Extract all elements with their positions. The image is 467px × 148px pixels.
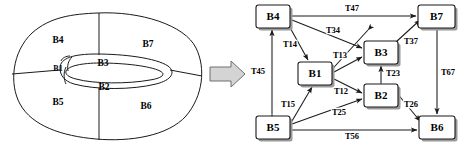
- b1-wedge-arc-lower: [64, 67, 66, 84]
- right-diagram-group: B4 B7 B3 B1 B2 B5: [251, 3, 458, 142]
- node-B2-label: B2: [375, 89, 388, 101]
- left-region-label-b7: B7: [142, 39, 153, 49]
- left-diagram-group: B4 B7 B1 B3 B2 B5 B6: [12, 13, 202, 140]
- cut-right-b7-b6: [170, 70, 202, 76]
- transform-arrow: [210, 61, 245, 87]
- left-region-label-b5: B5: [52, 97, 63, 107]
- edge-label-T13: T13: [333, 50, 347, 60]
- edge-label-T26: T26: [404, 99, 418, 109]
- b1-wedge-arc-upper: [61, 56, 70, 61]
- node-B7-label: B7: [430, 10, 443, 22]
- node-B3[interactable]: B3: [364, 41, 401, 67]
- left-region-label-b4: B4: [52, 35, 63, 45]
- node-B5-label: B5: [267, 121, 280, 133]
- edge-label-T15: T15: [281, 99, 295, 109]
- outer-boundary: [14, 13, 202, 140]
- left-region-label-b2: B2: [98, 82, 109, 92]
- edge-label-T45: T45: [251, 66, 265, 76]
- edge-label-T14: T14: [283, 39, 298, 49]
- node-B6-label: B6: [431, 121, 444, 133]
- inner-hole-inner: [66, 63, 163, 83]
- edge-label-T37: T37: [404, 36, 419, 46]
- figure-svg: B4 B7 B1 B3 B2 B5 B6: [0, 0, 467, 148]
- node-B4[interactable]: B4: [256, 5, 293, 31]
- edge-label-T25: T25: [332, 107, 346, 117]
- left-region-label-b1: B1: [53, 64, 62, 73]
- node-B4-label: B4: [267, 10, 280, 22]
- left-region-label-b6: B6: [140, 101, 151, 111]
- edge-label-T56: T56: [345, 131, 359, 141]
- edge-label-T34: T34: [326, 25, 341, 35]
- right-block-arrow-icon: [210, 61, 245, 87]
- edge-label-T12: T12: [334, 86, 348, 96]
- node-B5[interactable]: B5: [256, 116, 293, 142]
- node-B1-label: B1: [309, 67, 322, 79]
- node-B6[interactable]: B6: [419, 116, 458, 142]
- edge-label-T67: T67: [441, 67, 456, 77]
- node-B1[interactable]: B1: [298, 62, 335, 88]
- left-region-label-b3: B3: [97, 58, 108, 68]
- node-B3-label: B3: [375, 46, 388, 58]
- figure-canvas: B4 B7 B1 B3 B2 B5 B6: [0, 0, 467, 148]
- edge-label-T23: T23: [386, 68, 400, 78]
- node-B7[interactable]: B7: [418, 5, 458, 31]
- node-B2[interactable]: B2: [364, 84, 401, 110]
- edge-label-T47: T47: [345, 3, 360, 13]
